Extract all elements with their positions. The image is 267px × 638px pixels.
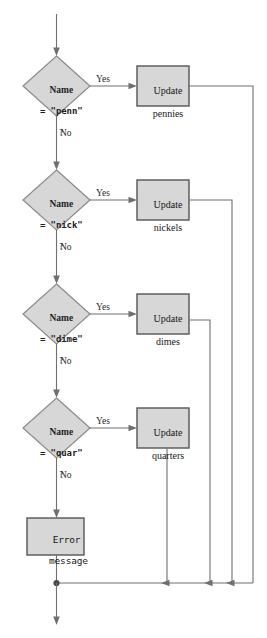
- branch-label-quar-yes: Yes: [96, 416, 110, 427]
- decision-penn-line1: Name: [49, 85, 73, 95]
- decision-dime-line2: = "dime": [40, 334, 83, 344]
- decision-label-dime: Name = "dime" ?: [16, 302, 97, 376]
- process-pennies-line1: Update: [154, 85, 183, 96]
- return-line-dimes: [189, 320, 210, 583]
- process-label-quarters: Update quarters: [135, 416, 191, 472]
- decision-nick-line2: = "nick": [40, 220, 83, 230]
- decision-quar-line1: Name: [49, 427, 73, 437]
- process-nickels-line1: Update: [154, 199, 183, 210]
- process-pennies-line2: pennies: [153, 108, 184, 119]
- decision-label-quar: Name = "quar" ?: [16, 416, 97, 490]
- branch-label-quar-no: No: [60, 470, 72, 481]
- flowchart-canvas: Name = "penn" ? Yes No Update pennies Na…: [0, 0, 267, 638]
- branch-label-penn-no: No: [60, 128, 72, 139]
- process-error-line1: Error: [53, 534, 81, 545]
- decision-label-nick: Name = "nick" ?: [16, 188, 97, 262]
- process-quarters-line1: Update: [154, 427, 183, 438]
- decision-dime-line1: Name: [49, 313, 73, 323]
- return-line-pennies: [189, 86, 253, 583]
- branch-label-nick-no: No: [60, 242, 72, 253]
- process-label-dimes: Update dimes: [137, 302, 189, 358]
- process-quarters-line2: quarters: [152, 450, 184, 461]
- process-label-error: Error message: [27, 524, 84, 577]
- process-label-pennies: Update pennies: [137, 74, 189, 130]
- exit-arrow: [53, 583, 60, 625]
- merge-arrow-nickels: [226, 580, 235, 587]
- branch-label-dime-no: No: [60, 356, 72, 367]
- decision-nick-line1: Name: [49, 199, 73, 209]
- process-dimes-line1: Update: [154, 313, 183, 324]
- branch-label-nick-yes: Yes: [96, 188, 110, 199]
- merge-arrow-dimes: [204, 580, 213, 587]
- decision-penn-line2: = "penn": [40, 106, 83, 116]
- process-nickels-line2: nickels: [154, 222, 182, 233]
- entry-arrow: [53, 14, 60, 56]
- decision-quar-line2: = "quar": [40, 448, 83, 458]
- process-dimes-line2: dimes: [156, 336, 180, 347]
- branch-label-dime-yes: Yes: [96, 302, 110, 313]
- decision-label-penn: Name = "penn" ?: [16, 74, 97, 148]
- process-label-nickels: Update nickels: [137, 188, 189, 244]
- branch-label-penn-yes: Yes: [96, 74, 110, 85]
- merge-arrow-quarters: [161, 580, 170, 587]
- process-error-line2: message: [49, 555, 88, 566]
